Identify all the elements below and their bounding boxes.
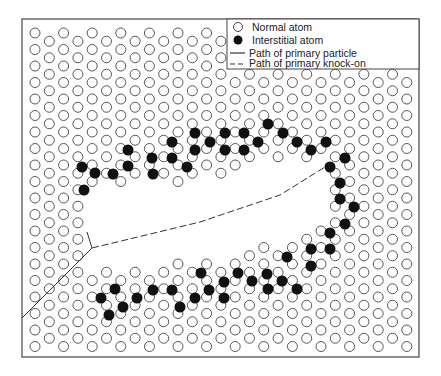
normal-atom (144, 127, 154, 137)
normal-atom (73, 267, 83, 277)
interstitial-atom (335, 194, 346, 205)
interstitial-atom (325, 162, 336, 173)
normal-atom (59, 259, 69, 269)
normal-atom (30, 160, 40, 170)
normal-atom (187, 317, 197, 327)
normal-atom (402, 342, 412, 352)
normal-atom (130, 284, 140, 294)
normal-atom (73, 102, 83, 112)
normal-atom (245, 86, 255, 96)
normal-atom (144, 94, 154, 104)
normal-atom (245, 69, 255, 79)
normal-atom (202, 342, 212, 352)
normal-atom (373, 226, 383, 236)
interstitial-atom (204, 285, 215, 296)
normal-atom (144, 28, 154, 38)
normal-atom (287, 309, 297, 319)
interstitial-atom (96, 293, 107, 304)
normal-atom (388, 185, 398, 195)
normal-atom (345, 144, 355, 154)
normal-atom (102, 102, 112, 112)
normal-atom (59, 45, 69, 55)
normal-atom (44, 284, 54, 294)
normal-atom (359, 135, 369, 145)
normal-atom (373, 193, 383, 203)
interstitial-atom (104, 310, 115, 321)
normal-atom (130, 36, 140, 46)
normal-atom (302, 102, 312, 112)
interstitial-atom (292, 284, 303, 295)
normal-atom (102, 119, 112, 129)
interstitial-atom (292, 137, 303, 148)
normal-atom (245, 300, 255, 310)
normal-atom (59, 160, 69, 170)
normal-atom (30, 325, 40, 335)
legend: Normal atom Interstitial atom Path of pr… (227, 19, 419, 69)
normal-atom (59, 111, 69, 121)
normal-atom (130, 86, 140, 96)
interstitial-atom (147, 153, 158, 164)
normal-atom (230, 325, 240, 335)
normal-atom (59, 210, 69, 220)
normal-atom (402, 160, 412, 170)
normal-atom (287, 111, 297, 121)
normal-atom (59, 243, 69, 253)
normal-atom (330, 218, 340, 228)
normal-atom (30, 28, 40, 38)
interstitial-atom (190, 145, 201, 156)
normal-atom (388, 135, 398, 145)
normal-atom (202, 94, 212, 104)
normal-atom (44, 333, 54, 343)
normal-atom (245, 317, 255, 327)
normal-atom (73, 69, 83, 79)
normal-atom (216, 53, 226, 63)
legend-label-interstitial-atom: Interstitial atom (252, 34, 323, 46)
normal-atom (373, 144, 383, 154)
normal-atom (287, 325, 297, 335)
normal-atom (59, 342, 69, 352)
normal-atom (259, 243, 269, 253)
normal-atom (330, 300, 340, 310)
interstitial-atom (220, 128, 231, 139)
interstitial-atom (233, 268, 244, 279)
interstitial-atom (148, 285, 159, 296)
normal-atom (44, 86, 54, 96)
interstitial-atom (278, 128, 289, 139)
normal-atom (187, 36, 197, 46)
normal-atom (359, 86, 369, 96)
normal-atom (359, 317, 369, 327)
normal-atom (359, 185, 369, 195)
normal-atom (402, 309, 412, 319)
normal-atom (302, 333, 312, 343)
normal-atom (359, 300, 369, 310)
normal-atom (173, 127, 183, 137)
normal-atom (287, 78, 297, 88)
normal-atom (173, 342, 183, 352)
interstitial-atom (349, 202, 360, 213)
normal-atom (316, 309, 326, 319)
normal-atom (388, 267, 398, 277)
interstitial-atom (263, 119, 274, 130)
normal-atom (230, 342, 240, 352)
normal-atom (302, 317, 312, 327)
normal-atom (316, 325, 326, 335)
normal-atom (44, 36, 54, 46)
normal-atom (388, 86, 398, 96)
normal-atom (130, 53, 140, 63)
normal-atom (30, 61, 40, 71)
interstitial-atom (282, 252, 293, 263)
normal-atom (359, 234, 369, 244)
interstitial-atom (306, 261, 317, 272)
normal-atom (273, 251, 283, 261)
normal-atom (87, 28, 97, 38)
legend-label-primary-knock-on: Path of primary knock-on (249, 57, 366, 69)
normal-atom (102, 53, 112, 63)
normal-atom (30, 177, 40, 187)
normal-atom (87, 309, 97, 319)
interstitial-atom (239, 145, 250, 156)
radiation-damage-diagram: Normal atom Interstitial atom Path of pr… (0, 0, 441, 376)
normal-atom (144, 325, 154, 335)
normal-atom (202, 309, 212, 319)
normal-atom (116, 111, 126, 121)
normal-atom (116, 61, 126, 71)
